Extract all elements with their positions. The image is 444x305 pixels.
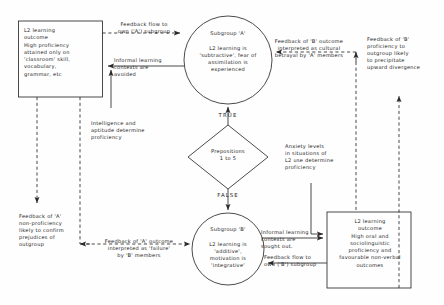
edge-label-feedback-b-proficiency: Feedback of 'B' proficiency to outgroup … — [367, 36, 441, 71]
edge-label-intelligence-aptitude: Intelligence and aptitude determine prof… — [91, 120, 171, 141]
edge-label-feedback-a-nonproficiency: Feedback of 'A' non-proficiency likely t… — [19, 213, 83, 248]
subgroup-b-node-label: Subgroup 'B' L2 learning is 'additive', … — [194, 226, 262, 270]
true-branch-label: TRUE — [208, 112, 248, 118]
diagram-canvas: L2 learning outcome High proficiency att… — [0, 0, 444, 305]
subgroup-a-node-label: Subgroup 'A' L2 learning is 'subtractive… — [187, 30, 269, 74]
edge-label-feedback-flow-b: Feedback flow to own ('B') subgroup — [264, 254, 334, 268]
edge-anxiety-down — [311, 183, 323, 234]
prepositions-decision-node-label: Prepositions 1 to 5 — [198, 148, 258, 163]
l2-learning-outcome-b-box-label: L2 learning outcome High oral and sociol… — [332, 218, 408, 269]
edge-label-feedback-a-outcome: Feedback of 'A' outcome interpreted as '… — [90, 238, 188, 259]
edge-label-feedback-flow-a: Feedback flow to own ('A') subgroup — [106, 21, 182, 35]
edge-label-anxiety-levels: Anxiety levels in situations of L2 use d… — [285, 143, 357, 171]
false-branch-label: FALSE — [208, 192, 248, 198]
edge-label-informal-learning-avoided: Informal learning contexts are avoided — [114, 57, 186, 78]
l2-learning-outcome-a-box-label: L2 learning outcome High proficiency att… — [24, 27, 98, 78]
edge-label-feedback-b-outcome: Feedback of 'B' outcome interpreted as c… — [264, 38, 354, 59]
edge-label-informal-learning-sought: Informal learning contexts are sought ou… — [261, 229, 329, 250]
